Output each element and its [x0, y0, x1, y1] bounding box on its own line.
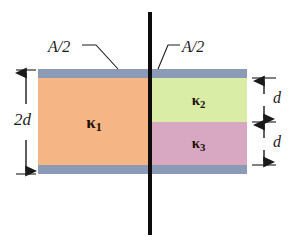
area-label-left: A/2 [48, 38, 70, 56]
dimension-label-d-bottom: d [273, 133, 281, 151]
material-block-k2: κ2 [150, 78, 247, 122]
material-subscript-k2: 2 [200, 98, 205, 110]
top-plate [38, 69, 247, 78]
leader-line-left [82, 45, 118, 69]
physics-figure: κ1 κ2 κ3 [0, 0, 292, 245]
material-subscript-k3: 3 [200, 141, 205, 153]
material-block-k3: κ3 [150, 122, 247, 165]
central-divider-line [148, 12, 152, 235]
dimension-label-2d: 2d [14, 110, 31, 130]
material-block-k1: κ1 [38, 78, 150, 165]
leader-line-right [158, 45, 180, 69]
bottom-plate [38, 165, 247, 174]
material-subscript-k1: 1 [96, 120, 102, 134]
area-label-right: A/2 [182, 38, 204, 56]
material-label-k2: κ2 [150, 93, 247, 110]
material-label-k1: κ1 [38, 114, 150, 134]
dimension-label-d-top: d [273, 89, 281, 107]
material-label-k3: κ3 [150, 136, 247, 153]
